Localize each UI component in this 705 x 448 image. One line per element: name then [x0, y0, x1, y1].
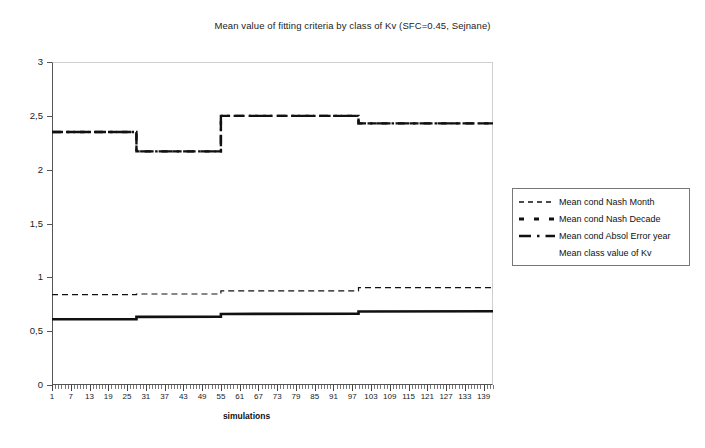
- y-tick-label: 0: [0, 379, 43, 390]
- x-tick-minor: [83, 385, 84, 389]
- x-tick-minor: [471, 385, 472, 389]
- x-tick-minor: [440, 385, 441, 389]
- x-tick-minor: [434, 385, 435, 389]
- x-tick-minor: [362, 385, 363, 389]
- x-tick-minor: [168, 385, 169, 389]
- x-tick-minor: [58, 385, 59, 389]
- x-tick-major: [127, 385, 128, 391]
- x-tick-major: [90, 385, 91, 391]
- legend-item: Mean cond Nash Month: [517, 193, 685, 210]
- x-tick-minor: [143, 385, 144, 389]
- y-tick-label: 1: [0, 271, 43, 282]
- x-tick-minor: [421, 385, 422, 389]
- x-tick-minor: [115, 385, 116, 389]
- y-axis: 00,511,522,53: [0, 0, 52, 448]
- x-tick-minor: [418, 385, 419, 389]
- x-tick-major: [333, 385, 334, 391]
- x-tick-major: [465, 385, 466, 391]
- x-tick-major: [446, 385, 447, 391]
- x-tick-minor: [218, 385, 219, 389]
- x-tick-minor: [80, 385, 81, 389]
- x-tick-minor: [359, 385, 360, 389]
- x-tick-minor: [468, 385, 469, 389]
- x-tick-major: [258, 385, 259, 391]
- x-tick-major: [146, 385, 147, 391]
- x-tick-minor: [199, 385, 200, 389]
- x-tick-major: [221, 385, 222, 391]
- y-tick-label: 0,5: [0, 325, 43, 336]
- x-tick-minor: [459, 385, 460, 389]
- x-tick-minor: [190, 385, 191, 389]
- x-tick-minor: [424, 385, 425, 389]
- x-tick-minor: [86, 385, 87, 389]
- x-tick-minor: [430, 385, 431, 389]
- x-tick-minor: [302, 385, 303, 389]
- x-tick-major: [202, 385, 203, 391]
- x-tick-minor: [490, 385, 491, 389]
- x-tick-minor: [174, 385, 175, 389]
- x-tick-minor: [293, 385, 294, 389]
- x-tick-minor: [243, 385, 244, 389]
- x-tick-minor: [133, 385, 134, 389]
- x-tick-minor: [230, 385, 231, 389]
- x-tick-minor: [349, 385, 350, 389]
- x-tick-minor: [340, 385, 341, 389]
- x-tick-minor: [368, 385, 369, 389]
- x-tick-minor: [305, 385, 306, 389]
- x-tick-major: [371, 385, 372, 391]
- x-tick-minor: [61, 385, 62, 389]
- x-tick-major: [409, 385, 410, 391]
- x-tick-minor: [96, 385, 97, 389]
- series-line-4: [52, 311, 493, 319]
- x-tick-minor: [412, 385, 413, 389]
- y-tick-label: 2,5: [0, 110, 43, 121]
- x-tick-minor: [255, 385, 256, 389]
- x-tick-minor: [380, 385, 381, 389]
- x-tick-minor: [111, 385, 112, 389]
- x-tick-minor: [152, 385, 153, 389]
- x-tick-label: 139: [471, 392, 497, 401]
- legend-item: Mean cond Nash Decade: [517, 210, 685, 227]
- x-tick-minor: [415, 385, 416, 389]
- x-tick-minor: [487, 385, 488, 389]
- x-tick-minor: [205, 385, 206, 389]
- x-tick-minor: [452, 385, 453, 389]
- x-tick-minor: [118, 385, 119, 389]
- x-tick-major: [165, 385, 166, 391]
- x-tick-minor: [384, 385, 385, 389]
- x-tick-minor: [246, 385, 247, 389]
- legend-swatch-dashed-thick-icon: [517, 213, 557, 225]
- x-tick-major: [427, 385, 428, 391]
- x-tick-major: [484, 385, 485, 391]
- x-tick-major: [315, 385, 316, 391]
- x-tick-minor: [355, 385, 356, 389]
- x-tick-minor: [493, 385, 494, 389]
- legend-label: Mean cond Nash Decade: [559, 214, 661, 224]
- x-tick-minor: [399, 385, 400, 389]
- x-tick-minor: [268, 385, 269, 389]
- x-tick-major: [390, 385, 391, 391]
- x-tick-major: [108, 385, 109, 391]
- legend-item: Mean cond Absol Error year: [517, 227, 685, 244]
- x-tick-minor: [365, 385, 366, 389]
- legend-label: Mean class value of Kv: [559, 248, 652, 258]
- x-tick-major: [240, 385, 241, 391]
- legend-label: Mean cond Absol Error year: [559, 231, 671, 241]
- x-tick-minor: [161, 385, 162, 389]
- x-tick-minor: [233, 385, 234, 389]
- x-tick-minor: [449, 385, 450, 389]
- x-tick-minor: [312, 385, 313, 389]
- x-tick-minor: [149, 385, 150, 389]
- x-tick-minor: [299, 385, 300, 389]
- x-tick-minor: [480, 385, 481, 389]
- x-tick-minor: [265, 385, 266, 389]
- x-tick-major: [71, 385, 72, 391]
- y-tick-label: 3: [0, 56, 43, 67]
- x-axis-title: simulations: [0, 411, 493, 421]
- x-tick-minor: [327, 385, 328, 389]
- x-tick-minor: [262, 385, 263, 389]
- x-tick-minor: [208, 385, 209, 389]
- x-tick-minor: [237, 385, 238, 389]
- chart-legend: Mean cond Nash MonthMean cond Nash Decad…: [512, 188, 690, 266]
- x-tick-minor: [212, 385, 213, 389]
